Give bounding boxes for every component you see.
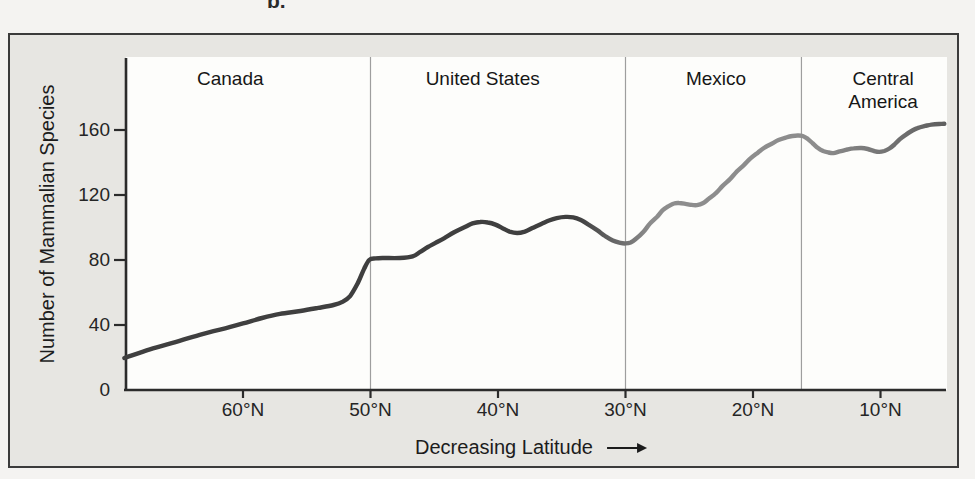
- region-label-united states: United States: [426, 67, 540, 90]
- x-tick-label: 60°N: [222, 399, 264, 421]
- x-tick-label: 10°N: [859, 399, 901, 421]
- x-axis-title-group: Decreasing Latitude: [415, 436, 647, 459]
- x-tick-label: 50°N: [349, 399, 391, 421]
- x-tick-label: 20°N: [732, 399, 774, 421]
- plot-area: [126, 57, 947, 390]
- region-label-line: United States: [426, 67, 540, 90]
- y-tick-label: 40: [89, 314, 110, 336]
- y-tick-label: 160: [78, 119, 110, 141]
- region-label-line: Central: [848, 67, 918, 90]
- region-label-line: Canada: [197, 67, 264, 90]
- x-tick-label: 30°N: [604, 399, 646, 421]
- figure-page: { "figure_label": "b.", "colors": { "fra…: [0, 0, 975, 479]
- region-label-mexico: Mexico: [686, 67, 746, 90]
- y-tick-label: 80: [89, 249, 110, 271]
- x-tick-label: 40°N: [477, 399, 519, 421]
- region-label-canada: Canada: [197, 67, 264, 90]
- x-axis-title: Decreasing Latitude: [415, 436, 593, 459]
- region-label-line: Mexico: [686, 67, 746, 90]
- region-label-central-america: CentralAmerica: [848, 67, 918, 113]
- y-tick-label: 0: [99, 379, 110, 401]
- right-arrow-icon: [607, 442, 647, 454]
- region-label-line: America: [848, 90, 918, 113]
- y-axis-title: Number of Mammalian Species: [36, 85, 59, 364]
- y-tick-label: 120: [78, 184, 110, 206]
